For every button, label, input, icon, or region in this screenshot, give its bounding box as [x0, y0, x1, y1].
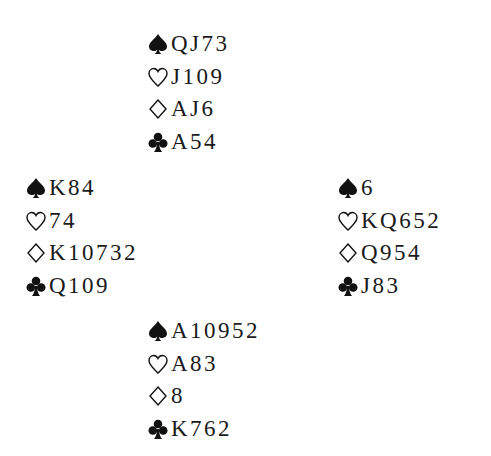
north-diamonds-row: AJ6 [146, 93, 230, 126]
spade-icon [24, 176, 48, 200]
west-hearts-cards: 74 [49, 205, 77, 238]
heart-icon [146, 352, 170, 376]
club-icon [24, 274, 48, 298]
west-clubs-cards: Q109 [49, 270, 110, 303]
north-hearts-cards: J109 [171, 61, 224, 94]
south-spades-cards: A10952 [171, 315, 260, 348]
north-hand: QJ73 J109 AJ6 A54 [146, 28, 230, 158]
west-spades-row: K84 [24, 172, 138, 205]
west-spades-cards: K84 [49, 172, 96, 205]
spade-icon [336, 176, 360, 200]
south-diamonds-cards: 8 [171, 380, 185, 413]
heart-icon [24, 209, 48, 233]
east-spades-row: 6 [336, 172, 441, 205]
west-diamonds-row: K10732 [24, 237, 138, 270]
south-hearts-cards: A83 [171, 348, 218, 381]
north-hearts-row: J109 [146, 61, 230, 94]
spade-icon [146, 319, 170, 343]
east-hearts-cards: KQ652 [361, 205, 441, 238]
south-spades-row: A10952 [146, 315, 260, 348]
west-hand: K84 74 K10732 Q109 [24, 172, 138, 302]
east-hand: 6 KQ652 Q954 J83 [336, 172, 441, 302]
club-icon [146, 130, 170, 154]
north-spades-cards: QJ73 [171, 28, 230, 61]
club-icon [336, 274, 360, 298]
west-diamonds-cards: K10732 [49, 237, 138, 270]
east-hearts-row: KQ652 [336, 205, 441, 238]
east-diamonds-row: Q954 [336, 237, 441, 270]
north-diamonds-cards: AJ6 [171, 93, 216, 126]
north-clubs-row: A54 [146, 126, 230, 159]
north-spades-row: QJ73 [146, 28, 230, 61]
west-hearts-row: 74 [24, 205, 138, 238]
diamond-icon [146, 97, 170, 121]
heart-icon [336, 209, 360, 233]
heart-icon [146, 65, 170, 89]
diamond-icon [146, 384, 170, 408]
east-clubs-row: J83 [336, 270, 441, 303]
south-clubs-cards: K762 [171, 413, 232, 446]
diamond-icon [336, 241, 360, 265]
spade-icon [146, 32, 170, 56]
south-hand: A10952 A83 8 K762 [146, 315, 260, 445]
south-clubs-row: K762 [146, 413, 260, 446]
diamond-icon [24, 241, 48, 265]
east-clubs-cards: J83 [361, 270, 400, 303]
north-clubs-cards: A54 [171, 126, 218, 159]
west-clubs-row: Q109 [24, 270, 138, 303]
east-diamonds-cards: Q954 [361, 237, 422, 270]
east-spades-cards: 6 [361, 172, 375, 205]
club-icon [146, 417, 170, 441]
south-diamonds-row: 8 [146, 380, 260, 413]
south-hearts-row: A83 [146, 348, 260, 381]
